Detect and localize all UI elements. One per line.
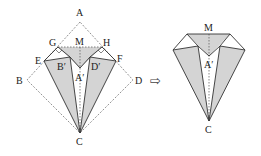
left-figure: A G M H E F B′ D′ A′ B D C: [16, 7, 142, 147]
label-M-right: M: [204, 22, 213, 33]
label-B-prime: B′: [57, 61, 66, 72]
label-D: D: [135, 75, 142, 86]
label-M: M: [75, 36, 84, 47]
label-A: A: [76, 7, 84, 18]
folding-diagram: A G M H E F B′ D′ A′ B D C ⇨ M A′ C: [0, 0, 261, 156]
label-F: F: [117, 53, 123, 64]
label-C-right: C: [205, 124, 212, 135]
label-C: C: [76, 136, 83, 147]
label-A-prime: A′: [75, 72, 84, 83]
label-G: G: [49, 37, 56, 48]
label-H: H: [103, 37, 110, 48]
label-A-prime-right: A′: [204, 59, 213, 70]
label-D-prime: D′: [91, 61, 100, 72]
label-E: E: [35, 55, 41, 66]
right-figure: M A′ C: [173, 22, 245, 135]
label-B: B: [16, 75, 23, 86]
arrow-icon: ⇨: [150, 73, 161, 88]
